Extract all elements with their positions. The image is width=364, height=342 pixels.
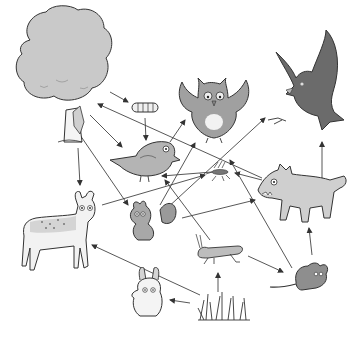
food-web-canvas [0,0,364,342]
food-web-diagram [0,0,364,342]
arrow-tree-to-caterpillar [110,92,128,102]
grass-icon [198,292,250,320]
arrow-squirrel-to-wolf [182,200,255,218]
hawk-icon [268,30,344,130]
arrow-tree-to-small-bird [90,115,122,147]
arrow-tree-to-deer [78,148,80,185]
rabbit-icon [132,268,162,317]
mouse-icon [270,263,328,290]
small-bird-icon [110,142,180,182]
owl-icon [179,78,249,143]
arrow-mouse-to-wolf [309,228,312,255]
squirrel-icon [130,201,176,240]
arrow-grass-to-rabbit [170,300,190,303]
arrow-grasshopper-to-mouse [248,256,283,272]
arrow-caterpillar-to-small-bird [145,118,146,140]
deer-icon [22,191,95,270]
wolf-icon [258,164,346,222]
mosquito-icon [206,161,230,181]
tree-icon [16,6,112,142]
caterpillar-icon [132,103,158,112]
arrow-small-bird-to-owl [170,120,185,142]
grasshopper-icon [196,234,243,264]
